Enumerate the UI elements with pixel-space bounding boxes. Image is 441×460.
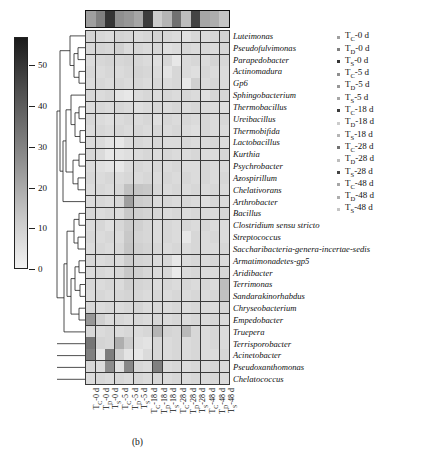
heatmap-cell[interactable] (201, 208, 210, 219)
heatmap-cell[interactable] (220, 231, 229, 242)
heatmap-cell[interactable] (124, 196, 133, 207)
heatmap-cell[interactable] (86, 78, 95, 89)
heatmap-cell[interactable] (172, 290, 181, 301)
heatmap-cell[interactable] (220, 125, 229, 136)
heatmap-cell[interactable] (86, 43, 95, 54)
heatmap-cell[interactable] (220, 31, 229, 42)
heatmap-cell[interactable] (96, 208, 105, 219)
heatmap-cell[interactable] (134, 302, 143, 313)
heatmap-cell[interactable] (172, 172, 181, 183)
heatmap-cell[interactable] (124, 373, 133, 384)
heatmap-cell[interactable] (143, 267, 152, 278)
heatmap-cell[interactable] (86, 31, 95, 42)
heatmap-cell[interactable] (191, 125, 200, 136)
heatmap-cell[interactable] (86, 125, 95, 136)
heatmap-cell[interactable] (201, 90, 210, 101)
heatmap-cell[interactable] (201, 279, 210, 290)
heatmap-cell[interactable] (153, 255, 162, 266)
heatmap-cell[interactable] (172, 137, 181, 148)
legend-item[interactable]: TD-48 d (337, 191, 437, 203)
heatmap-cell[interactable] (201, 149, 210, 160)
heatmap-cell[interactable] (201, 361, 210, 372)
heatmap-cell[interactable] (124, 290, 133, 301)
heatmap-cell[interactable] (153, 231, 162, 242)
heatmap-cell[interactable] (153, 302, 162, 313)
heatmap-cell[interactable] (220, 208, 229, 219)
heatmap-cell[interactable] (153, 43, 162, 54)
heatmap-cell[interactable] (163, 279, 172, 290)
heatmap-cell[interactable] (210, 78, 219, 89)
heatmap-cell[interactable] (182, 243, 191, 254)
heatmap-grid[interactable] (85, 30, 230, 385)
heatmap-cell[interactable] (191, 314, 200, 325)
heatmap-cell[interactable] (220, 255, 229, 266)
heatmap-cell[interactable] (86, 149, 95, 160)
heatmap-cell[interactable] (182, 326, 191, 337)
heatmap-cell[interactable] (143, 208, 152, 219)
heatmap-cell[interactable] (86, 184, 95, 195)
heatmap-cell[interactable] (134, 161, 143, 172)
heatmap-cell[interactable] (220, 361, 229, 372)
heatmap-cell[interactable] (210, 361, 219, 372)
heatmap-cell[interactable] (172, 231, 181, 242)
heatmap-cell[interactable] (172, 125, 181, 136)
legend-item[interactable]: TD-5 d (337, 80, 437, 92)
heatmap-cell[interactable] (143, 349, 152, 360)
heatmap-cell[interactable] (124, 31, 133, 42)
heatmap-cell[interactable] (143, 55, 152, 66)
heatmap-cell[interactable] (210, 43, 219, 54)
heatmap-cell[interactable] (163, 43, 172, 54)
heatmap-cell[interactable] (134, 31, 143, 42)
heatmap-cell[interactable] (115, 172, 124, 183)
heatmap-cell[interactable] (96, 184, 105, 195)
heatmap-cell[interactable] (143, 196, 152, 207)
heatmap-cell[interactable] (96, 66, 105, 77)
heatmap-cell[interactable] (210, 255, 219, 266)
heatmap-cell[interactable] (153, 267, 162, 278)
heatmap-cell[interactable] (96, 326, 105, 337)
heatmap-cell[interactable] (210, 161, 219, 172)
heatmap-cell[interactable] (134, 184, 143, 195)
heatmap-cell[interactable] (163, 361, 172, 372)
heatmap-cell[interactable] (163, 337, 172, 348)
heatmap-cell[interactable] (143, 243, 152, 254)
heatmap-cell[interactable] (191, 102, 200, 113)
heatmap-cell[interactable] (143, 66, 152, 77)
heatmap-cell[interactable] (86, 55, 95, 66)
heatmap-cell[interactable] (96, 172, 105, 183)
heatmap-cell[interactable] (134, 361, 143, 372)
heatmap-cell[interactable] (115, 31, 124, 42)
heatmap-cell[interactable] (191, 290, 200, 301)
heatmap-cell[interactable] (172, 184, 181, 195)
heatmap-cell[interactable] (115, 55, 124, 66)
heatmap-cell[interactable] (115, 78, 124, 89)
heatmap-cell[interactable] (115, 337, 124, 348)
heatmap-cell[interactable] (163, 220, 172, 231)
heatmap-cell[interactable] (86, 279, 95, 290)
heatmap-cell[interactable] (134, 337, 143, 348)
heatmap-cell[interactable] (134, 66, 143, 77)
heatmap-cell[interactable] (201, 114, 210, 125)
heatmap-cell[interactable] (143, 172, 152, 183)
heatmap-cell[interactable] (115, 373, 124, 384)
heatmap-cell[interactable] (134, 102, 143, 113)
heatmap-cell[interactable] (191, 78, 200, 89)
heatmap-cell[interactable] (143, 90, 152, 101)
heatmap-cell[interactable] (143, 373, 152, 384)
heatmap-cell[interactable] (201, 78, 210, 89)
heatmap-cell[interactable] (124, 220, 133, 231)
heatmap-cell[interactable] (124, 267, 133, 278)
heatmap-cell[interactable] (191, 349, 200, 360)
heatmap-cell[interactable] (191, 149, 200, 160)
heatmap-cell[interactable] (134, 314, 143, 325)
heatmap-cell[interactable] (210, 137, 219, 148)
heatmap-cell[interactable] (124, 66, 133, 77)
heatmap-cell[interactable] (124, 279, 133, 290)
heatmap-cell[interactable] (191, 255, 200, 266)
heatmap-cell[interactable] (182, 90, 191, 101)
heatmap-cell[interactable] (153, 279, 162, 290)
heatmap-cell[interactable] (220, 161, 229, 172)
heatmap-cell[interactable] (115, 361, 124, 372)
heatmap-cell[interactable] (143, 114, 152, 125)
heatmap-cell[interactable] (96, 314, 105, 325)
